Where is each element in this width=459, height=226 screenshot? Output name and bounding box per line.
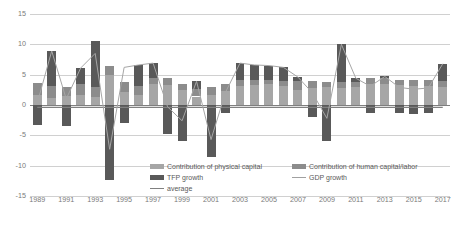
x-axis-tick: 1993: [87, 196, 103, 203]
legend-swatch-icon: [150, 164, 164, 169]
x-axis-tick: 2001: [203, 196, 219, 203]
legend-item-gdp-growth: GDP growth: [292, 173, 418, 183]
legend-column-right: Contribution of human capital/labor GDP …: [292, 162, 418, 184]
y-axis-labels: 151050-5-10-15: [0, 14, 26, 196]
y-axis-tick: 5: [2, 71, 26, 78]
growth-accounting-chart: 151050-5-10-15 1989199119931995199719992…: [0, 0, 459, 226]
legend-item-tfp-growth: TFP growth: [150, 173, 262, 183]
legend-label: average: [167, 184, 192, 193]
legend-line-icon: [292, 177, 306, 178]
legend-label: Contribution of physical capital: [167, 162, 262, 171]
gdp-growth-line: [37, 44, 443, 149]
legend-label: Contribution of human capital/labor: [309, 162, 418, 171]
legend-label: TFP growth: [167, 173, 203, 182]
legend-swatch-icon: [292, 164, 306, 169]
chart-legend: Contribution of physical capital TFP gro…: [150, 162, 450, 192]
x-axis-tick: 2015: [406, 196, 422, 203]
legend-column-left: Contribution of physical capital TFP gro…: [150, 162, 262, 194]
x-axis-tick: 2013: [377, 196, 393, 203]
x-axis-tick: 2007: [290, 196, 306, 203]
y-axis-tick: -10: [2, 162, 26, 169]
x-axis-tick: 1999: [174, 196, 190, 203]
legend-line-icon: [150, 188, 164, 189]
y-axis-tick: 10: [2, 40, 26, 47]
x-axis-tick: 1989: [29, 196, 45, 203]
legend-item-average: average: [150, 184, 262, 194]
x-axis-tick: 2009: [319, 196, 335, 203]
x-axis-tick: 2011: [348, 196, 363, 203]
legend-item-human-capital: Contribution of human capital/labor: [292, 162, 418, 172]
legend-swatch-icon: [150, 175, 164, 180]
legend-label: GDP growth: [309, 173, 347, 182]
x-axis-tick: 2017: [435, 196, 451, 203]
x-axis-tick: 1991: [58, 196, 74, 203]
y-axis-tick: -15: [2, 192, 26, 199]
y-axis-tick: -5: [2, 131, 26, 138]
legend-item-physical-capital: Contribution of physical capital: [150, 162, 262, 172]
x-axis-tick: 2003: [232, 196, 248, 203]
x-axis-tick: 1997: [145, 196, 161, 203]
x-axis-labels: 1989199119931995199719992001200320052007…: [30, 196, 450, 212]
x-axis-tick: 1995: [116, 196, 132, 203]
y-axis-tick: 15: [2, 10, 26, 17]
x-axis-tick: 2005: [261, 196, 277, 203]
y-axis-tick: 0: [2, 101, 26, 108]
